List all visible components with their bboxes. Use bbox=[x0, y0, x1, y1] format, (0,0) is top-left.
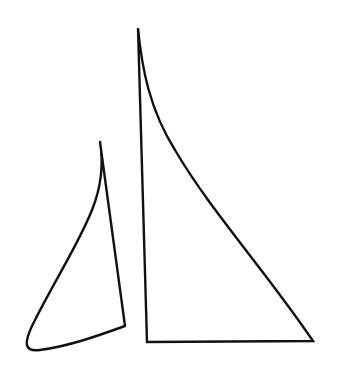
sails-illustration bbox=[0, 0, 338, 381]
small-sail-shape bbox=[27, 142, 125, 350]
sails-drawing bbox=[0, 0, 338, 381]
large-sail-shape bbox=[138, 28, 313, 342]
